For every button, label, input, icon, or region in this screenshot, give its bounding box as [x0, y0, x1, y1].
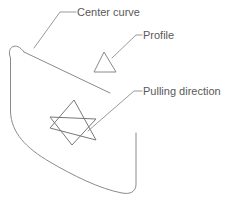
label-center-curve: Center curve	[77, 6, 140, 18]
profile-triangle	[94, 52, 116, 72]
hexagram-triangle-up	[50, 100, 96, 140]
pulling-direction-leader	[88, 91, 142, 131]
drawing-canvas	[0, 0, 236, 208]
hexagram-triangle-down	[50, 117, 96, 145]
swept-body-outline	[9, 46, 136, 193]
technical-drawing-figure: Center curve Profile Pulling direction	[0, 0, 236, 208]
label-profile: Profile	[143, 29, 174, 41]
profile-leader	[112, 35, 142, 58]
center-curve-leader	[34, 12, 76, 48]
label-pulling-direction: Pulling direction	[143, 85, 221, 97]
